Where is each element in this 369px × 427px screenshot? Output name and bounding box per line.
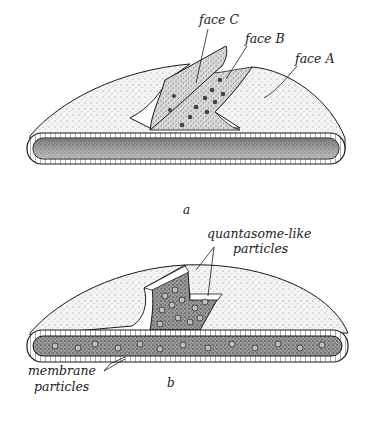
label-face-a: face A xyxy=(295,52,334,66)
panel-a-drawing xyxy=(27,29,345,164)
label-face-c: face C xyxy=(199,13,239,27)
label-membrane-line2: particles xyxy=(34,380,89,394)
label-face-b: face B xyxy=(245,32,285,46)
label-quantasome-line2: particles xyxy=(233,242,288,256)
label-membrane-line1: membrane xyxy=(28,364,96,378)
caption-a: a xyxy=(183,203,190,217)
caption-b: b xyxy=(167,376,175,390)
panel-b-drawing xyxy=(27,247,348,371)
label-quantasome-line1: quantasome-like xyxy=(207,227,311,241)
